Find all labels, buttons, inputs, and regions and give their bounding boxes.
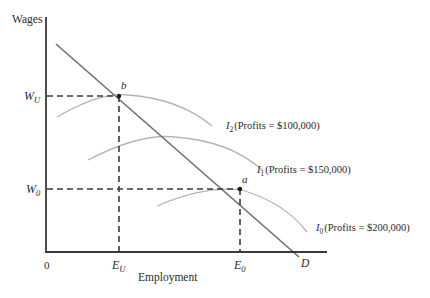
point-a-label: a [242,173,248,185]
i1-label: I1(Profits = $150,000) [256,164,351,178]
indifference-curve-i0 [157,189,307,232]
i2-label: I2(Profits = $100,000) [225,120,320,134]
origin-label: 0 [44,259,50,271]
employment-union-label: EU [111,258,126,274]
indifference-curve-i2 [57,95,212,126]
indifference-curve-i1 [88,136,262,170]
y-axis-label: Wages [12,13,43,26]
x-axis-label: Employment [138,271,198,284]
point-a-marker [238,187,242,191]
point-b-marker [117,94,121,98]
diagram-canvas: Wages Employment 0 WU W0 EU E0 b a D I2(… [0,0,430,298]
wage-union-label: WU [24,89,41,105]
demand-curve [56,44,299,257]
point-b-label: b [121,79,127,91]
i0-label: I0(Profits = $200,000) [315,222,410,236]
employment-zero-label: E0 [233,258,246,274]
wage-zero-label: W0 [26,182,41,198]
demand-label: D [300,257,310,269]
